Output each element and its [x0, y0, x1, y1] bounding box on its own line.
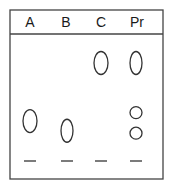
tlc-plate: A B C Pr: [0, 0, 169, 189]
lane-label-c: C: [96, 14, 106, 30]
plate-frame: [10, 10, 163, 179]
lane-label-pr: Pr: [130, 14, 144, 30]
lane-label-a: A: [25, 14, 35, 30]
lane-label-b: B: [61, 14, 70, 30]
